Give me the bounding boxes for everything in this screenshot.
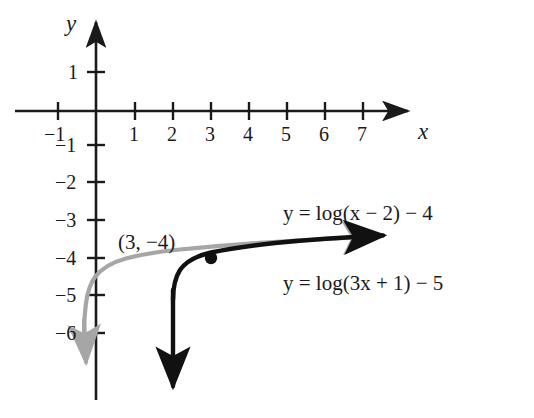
x-tick-label-6: 6	[319, 124, 329, 144]
y-tick-label-neg6: −6	[55, 323, 76, 343]
y-axis	[87, 22, 105, 400]
x-tick-label-4: 4	[243, 124, 253, 144]
y-tick-label-1: 1	[68, 62, 78, 82]
x-tick-label-5: 5	[281, 124, 291, 144]
curve-black-logx2	[173, 236, 383, 387]
intersection-point-marker	[205, 252, 217, 264]
x-tick-label-2: 2	[167, 124, 177, 144]
coordinate-plot	[0, 0, 534, 418]
y-axis-name-label: y	[66, 12, 76, 35]
curve-gray-log3x1	[84, 237, 380, 363]
y-tick-label-neg3: −3	[55, 210, 76, 230]
x-tick-label-3: 3	[205, 124, 215, 144]
equation-label-gray: y = log(3x + 1) − 5	[283, 273, 443, 294]
y-tick-label-neg1: −1	[55, 135, 76, 155]
x-tick-label-7: 7	[357, 124, 367, 144]
figure-canvas: −1 1 2 3 4 5 6 7 1 −1 −2 −3 −4 −5 −6 y x…	[0, 0, 534, 418]
x-axis	[15, 102, 408, 120]
x-axis-name-label: x	[418, 120, 428, 143]
intersection-point-label: (3, −4)	[118, 232, 175, 253]
y-tick-label-neg4: −4	[55, 248, 76, 268]
y-tick-label-neg2: −2	[55, 172, 76, 192]
y-tick-label-neg5: −5	[55, 285, 76, 305]
x-tick-label-1: 1	[129, 124, 139, 144]
equation-label-black: y = log(x − 2) − 4	[283, 203, 433, 224]
